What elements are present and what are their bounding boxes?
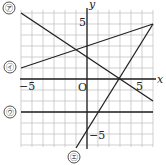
svg-text:㋑: ㋑ [6, 63, 14, 72]
label-a: ㋐ [3, 2, 15, 14]
label-i: ㋑ [4, 61, 16, 73]
coordinate-diagram: y x O −5 5 5 −5 ㋐ ㋑ ㋒ ㋓ [0, 0, 166, 165]
svg-text:㋒: ㋒ [6, 108, 14, 117]
y-tick-neg5: −5 [89, 129, 105, 142]
x-tick-neg5: −5 [19, 80, 35, 93]
x-axis-label: x [157, 73, 164, 86]
svg-text:㋓: ㋓ [70, 153, 78, 162]
label-u: ㋒ [4, 106, 16, 118]
label-e: ㋓ [68, 151, 80, 163]
y-tick-pos5: 5 [79, 16, 86, 29]
origin-label: O [78, 81, 87, 94]
x-tick-pos5: 5 [136, 80, 143, 93]
y-axis-label: y [88, 0, 96, 11]
svg-text:㋐: ㋐ [5, 4, 13, 13]
